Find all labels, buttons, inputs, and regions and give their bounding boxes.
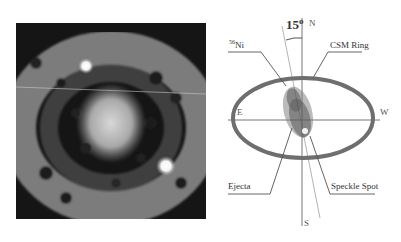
speckle-spot-label: Speckle Spot <box>331 181 378 191</box>
ejecta-cloud <box>278 83 319 140</box>
compass-north: N <box>309 18 316 28</box>
csm-leader-line <box>313 52 362 78</box>
angle-label: 15o <box>286 16 304 33</box>
angle-arc <box>286 38 302 40</box>
compass-east: E <box>237 107 243 117</box>
astronomical-image <box>16 23 206 219</box>
ejecta-label: Ejecta <box>228 181 250 191</box>
ni-label: 56Ni <box>229 39 244 50</box>
csm-ring-label: CSM Ring <box>330 40 369 50</box>
ring-schematic-graphic <box>220 0 401 242</box>
compass-west: W <box>380 107 389 117</box>
compass-south: S <box>304 218 309 228</box>
schematic-diagram: 15o N S E W 56Ni CSM Ring Ejecta Speckle… <box>220 0 401 242</box>
ring-image-graphic <box>16 23 206 219</box>
speckle-spot <box>302 128 308 134</box>
